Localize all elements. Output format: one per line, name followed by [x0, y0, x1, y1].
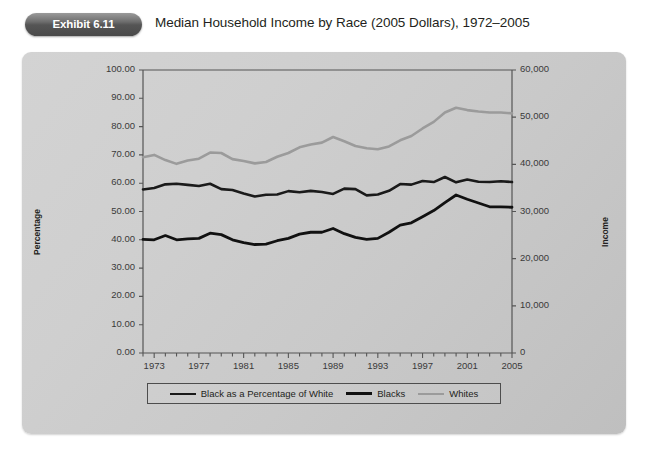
- y-axis-left-tick-label: 80.00: [85, 120, 135, 131]
- x-axis-tick-label: 1973: [134, 360, 174, 371]
- legend-line-icon: [170, 393, 196, 395]
- y-axis-right-tick-label: 20,000: [520, 252, 570, 263]
- x-axis-tick-label: 1989: [313, 360, 353, 371]
- exhibit-header: Exhibit 6.11 Median Household Income by …: [0, 0, 648, 52]
- exhibit-badge: Exhibit 6.11: [25, 13, 142, 36]
- x-axis-tick-label: 2005: [492, 360, 532, 371]
- y-axis-left-tick-label: 60.00: [85, 176, 135, 187]
- x-axis-tick-label: 1981: [224, 360, 264, 371]
- y-axis-right-tick-label: 50,000: [520, 110, 570, 121]
- x-axis-tick-label: 1985: [268, 360, 308, 371]
- y-axis-left-tick-label: 0.00: [85, 346, 135, 357]
- y-axis-left-title: Percentage: [32, 197, 42, 267]
- y-axis-left-tick-label: 100.00: [85, 63, 135, 74]
- legend-label: Whites: [449, 388, 478, 399]
- y-axis-left-tick-label: 50.00: [85, 205, 135, 216]
- legend-item: Whites: [418, 388, 478, 399]
- chart-panel: Percentage Income 0.0010.0020.0030.0040.…: [22, 52, 626, 434]
- plot-area: Percentage Income 0.0010.0020.0030.0040.…: [22, 52, 626, 434]
- y-axis-left-tick-label: 20.00: [85, 289, 135, 300]
- y-axis-left-tick-label: 90.00: [85, 91, 135, 102]
- legend-item: Blacks: [346, 388, 405, 399]
- x-axis-tick-label: 1977: [179, 360, 219, 371]
- chart-legend: Black as a Percentage of WhiteBlacksWhit…: [147, 383, 501, 404]
- y-axis-right-tick-label: 0: [520, 346, 570, 357]
- y-axis-right-tick-label: 30,000: [520, 205, 570, 216]
- y-axis-right-tick-label: 60,000: [520, 63, 570, 74]
- y-axis-right-title: Income: [600, 197, 610, 267]
- page-title: Median Household Income by Race (2005 Do…: [155, 15, 530, 30]
- x-axis-tick-label: 1993: [358, 360, 398, 371]
- legend-label: Black as a Percentage of White: [201, 388, 334, 399]
- y-axis-left-tick-label: 10.00: [85, 318, 135, 329]
- y-axis-left-tick-label: 70.00: [85, 148, 135, 159]
- y-axis-left-tick-label: 30.00: [85, 261, 135, 272]
- legend-label: Blacks: [377, 388, 405, 399]
- y-axis-left-tick-label: 40.00: [85, 233, 135, 244]
- x-axis-tick-label: 2001: [447, 360, 487, 371]
- y-axis-right-tick-label: 40,000: [520, 157, 570, 168]
- legend-item: Black as a Percentage of White: [170, 388, 334, 399]
- y-axis-right-tick-label: 10,000: [520, 299, 570, 310]
- legend-line-icon: [418, 393, 444, 395]
- legend-line-icon: [346, 392, 372, 395]
- x-axis-tick-label: 1997: [403, 360, 443, 371]
